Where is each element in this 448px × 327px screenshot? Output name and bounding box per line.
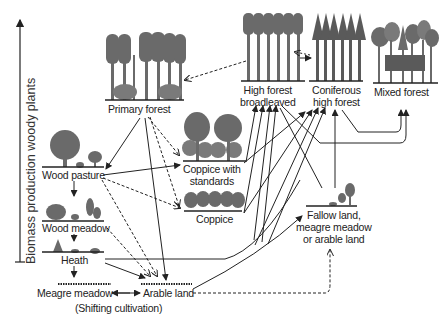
label-wood-pasture: Wood pasture [42, 169, 105, 181]
label-fallow-line1: Fallow land, [296, 209, 372, 221]
label-coppice: Coppice [196, 213, 233, 225]
label-mixed-forest: Mixed forest [374, 86, 429, 98]
label-coniferous-line1: Coniferous [312, 84, 361, 96]
label-coniferous-line2: high forest [312, 96, 361, 108]
axis-label: Biomass production woody plants [24, 78, 38, 264]
label-coniferous-high-forest: Coniferous high forest [312, 84, 361, 108]
label-high-forest-line1: High forest [240, 84, 296, 96]
wood-pasture-icon [42, 130, 104, 168]
primary-forest-icon [105, 32, 186, 100]
fallow-land-icon [306, 183, 357, 206]
wood-meadow-icon [42, 198, 104, 221]
coppice-with-standards-icon [182, 112, 246, 161]
mixed-forest-icon [371, 20, 439, 83]
label-shifting-cultivation: (Shifting cultivation) [75, 302, 162, 314]
label-wood-meadow: Wood meadow [42, 222, 110, 234]
heath-icon [42, 239, 104, 254]
label-primary-forest: Primary forest [108, 103, 171, 115]
coniferous-forest-icon [309, 13, 366, 81]
label-coppice-standards-line1: Coppice with [183, 163, 241, 175]
coppice-icon [184, 191, 245, 211]
label-arable-land: Arable land [143, 287, 194, 299]
label-fallow-line3: or arable land [296, 233, 372, 245]
label-coppice-with-standards: Coppice with standards [183, 163, 241, 187]
label-meagre-meadow: Meagre meadow [37, 287, 113, 299]
label-high-forest-broadleaved: High forest broadleaved [240, 84, 296, 108]
label-high-forest-line2: broadleaved [240, 96, 296, 108]
label-coppice-standards-line2: standards [183, 175, 241, 187]
label-fallow-land: Fallow land, meagre meadow or arable lan… [296, 209, 372, 245]
high-forest-broadleaved-icon [241, 13, 305, 81]
label-fallow-line2: meagre meadow [296, 221, 372, 233]
label-heath: Heath [61, 254, 88, 266]
